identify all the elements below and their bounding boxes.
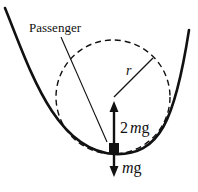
normal-force-coef: 2: [120, 119, 128, 136]
normal-force-arrowhead-icon: [110, 101, 119, 112]
weight-m: m: [122, 159, 134, 176]
passenger-leader-line: [61, 37, 107, 142]
roller-coaster-valley-diagram: r Passenger 2mg mg: [0, 0, 198, 192]
normal-force-label: 2mg: [120, 119, 150, 137]
weight-label: mg: [122, 159, 142, 177]
normal-force-m: m: [130, 119, 142, 136]
weight-g: g: [134, 159, 142, 177]
passenger-box: [109, 143, 119, 154]
weight-arrowhead-icon: [110, 166, 119, 177]
radius-line: [114, 58, 153, 97]
passenger-label: Passenger: [29, 20, 82, 35]
radius-label: r: [126, 63, 132, 78]
normal-force-g: g: [142, 119, 150, 137]
